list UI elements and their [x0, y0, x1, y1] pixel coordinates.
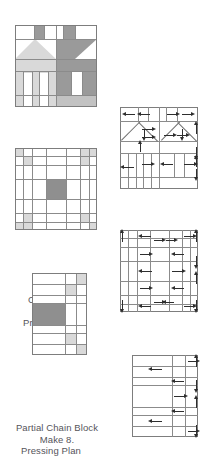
chain-block-diagram: [15, 148, 97, 230]
partial-chain-block-caption-line2: Make 8.: [0, 434, 114, 446]
partial-chain-plan-caption: Pressing Plan: [0, 445, 102, 457]
partial-chain-block-diagram: [32, 273, 87, 355]
partial-chain-pressing-plan: [132, 355, 198, 437]
partial-chain-row: Partial Chain Block Make 8. Pressing Pla…: [0, 258, 214, 387]
partial-chain-block-caption: Partial Chain Block Make 8.: [0, 422, 114, 445]
partial-chain-block-caption-line1: Partial Chain Block: [0, 422, 114, 434]
partial-chain-plan-caption-line1: Pressing Plan: [0, 445, 102, 457]
chain-row: Chain Block Make 4. Pressing Plan: [0, 130, 214, 258]
house-row: House Block Make 5. Pressing Plan: [0, 0, 214, 130]
house-block-diagram: [15, 25, 97, 107]
